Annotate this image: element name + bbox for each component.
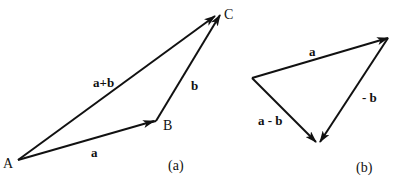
vector-neg-b-arrow [320,38,388,142]
segment-b-start [148,121,156,123]
vector-a-minus-b-label: a - b [258,113,283,128]
diagram-b: a - b a - b (b) [252,38,388,176]
vector-a-label: a [91,145,98,160]
vector-a-plus-b-arrow [18,16,215,160]
vector-a-label-b: a [309,44,316,59]
vector-b-arrow [156,15,220,121]
vector-a-plus-b-label: a+b [93,75,114,90]
diagram-a: A B C a b a+b (a) [3,7,233,174]
vector-neg-b-label: - b [362,90,377,105]
point-a-label: A [3,156,14,171]
vector-a-arrow [18,121,154,160]
vector-a-arrow-b [252,38,388,78]
point-b-label: B [163,118,172,133]
caption-b: (b) [356,160,373,176]
vector-a-minus-b-arrow [252,78,316,142]
point-c-label: C [224,7,233,22]
vector-addition-diagram: A B C a b a+b (a) a - b a - b (b) [0,0,396,183]
vector-b-label: b [191,78,198,93]
caption-a: (a) [168,158,184,174]
